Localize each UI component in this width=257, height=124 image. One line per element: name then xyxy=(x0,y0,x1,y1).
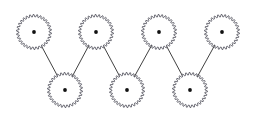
gear-top-4[interactable]: Gear 7 xyxy=(205,15,240,50)
gear-top-1[interactable]: Gear 1 xyxy=(17,15,52,50)
gear-hub-dot xyxy=(125,88,129,92)
gear-hub-dot xyxy=(94,30,98,34)
gear-hub-dot xyxy=(188,88,192,92)
gear-top-3[interactable]: Gear 5 xyxy=(142,15,177,50)
gear-hub-dot xyxy=(220,30,224,34)
gear-hub-dot xyxy=(32,30,36,34)
gear-chain-canvas: Gear 1Gear 3Gear 5Gear 7Gear 2Gear 4Gear… xyxy=(0,0,257,124)
gear-top-2[interactable]: Gear 3 xyxy=(79,15,114,50)
gear-hub-dot xyxy=(157,30,161,34)
gear-bottom-3[interactable]: Gear 6 xyxy=(173,73,208,108)
gear-chain-diagram: Gear 1Gear 3Gear 5Gear 7Gear 2Gear 4Gear… xyxy=(0,0,257,124)
gear-bottom-2[interactable]: Gear 4 xyxy=(110,73,145,108)
gear-bottom-1[interactable]: Gear 2 xyxy=(48,73,83,108)
gear-hub-dot xyxy=(63,88,67,92)
